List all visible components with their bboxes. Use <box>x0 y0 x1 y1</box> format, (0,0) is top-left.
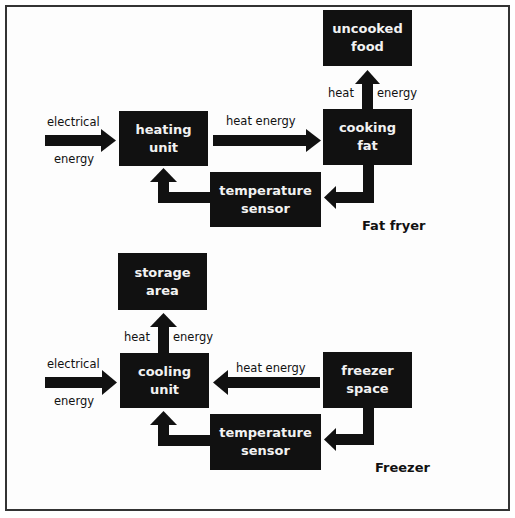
node-storage-area: storagearea <box>118 253 207 310</box>
label-heat: heat <box>328 86 354 100</box>
node-text: unit <box>138 381 191 399</box>
node-uncooked-food: uncookedfood <box>323 10 412 66</box>
label-electrical: electrical <box>47 357 100 371</box>
diagram-title-freezer: Freezer <box>375 460 430 475</box>
node-text: cooling <box>138 363 191 381</box>
node-text: temperature <box>219 424 312 442</box>
node-text: food <box>332 38 403 56</box>
label-electrical: electrical <box>47 115 100 129</box>
node-text: uncooked <box>332 20 403 38</box>
arrow-sensor-to-heating <box>150 168 210 203</box>
node-text: sensor <box>219 442 312 460</box>
node-text: space <box>341 380 394 398</box>
node-text: storage <box>134 264 190 282</box>
arrow-sensor-to-cooling <box>150 411 210 446</box>
node-text: unit <box>135 139 191 157</box>
arrow-cooking-to-sensor <box>324 165 374 209</box>
arrow-heating-to-cooking <box>213 129 321 152</box>
arrow-freezer-to-sensor <box>324 408 374 451</box>
arrow-electrical-to-heating <box>45 129 116 152</box>
node-text: area <box>134 282 190 300</box>
label-heat: heat <box>124 330 150 344</box>
label-energy: energy <box>173 330 213 344</box>
node-text: heating <box>135 121 191 139</box>
node-cooling-unit: coolingunit <box>120 353 209 408</box>
label-heat-energy: heat energy <box>236 361 306 375</box>
node-freezer-space: freezerspace <box>323 352 412 408</box>
node-text: sensor <box>219 200 312 218</box>
node-text: fat <box>339 137 396 155</box>
label-heat-energy: heat energy <box>226 114 296 128</box>
node-temperature-sensor-freezer: temperaturesensor <box>210 414 321 470</box>
arrow-electrical-to-cooling <box>45 370 117 395</box>
label-energy: energy <box>54 394 94 408</box>
node-cooking-fat: cookingfat <box>323 109 412 165</box>
node-heating-unit: heatingunit <box>119 111 208 166</box>
node-temperature-sensor-fryer: temperaturesensor <box>210 172 321 227</box>
node-text: temperature <box>219 182 312 200</box>
label-energy: energy <box>377 86 417 100</box>
label-energy: energy <box>54 152 94 166</box>
node-text: cooking <box>339 119 396 137</box>
diagram-title-fat-fryer: Fat fryer <box>362 218 425 233</box>
node-text: freezer <box>341 362 394 380</box>
